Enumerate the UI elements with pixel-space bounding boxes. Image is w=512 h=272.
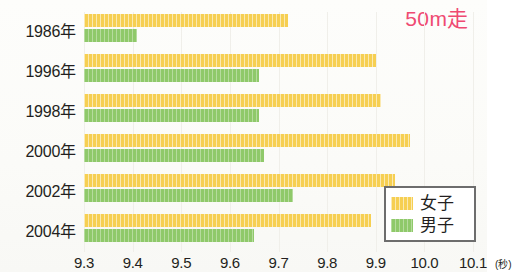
bar-male[interactable] — [84, 229, 254, 242]
y-axis-label-1986年: 1986年 — [25, 18, 76, 42]
legend-swatch-female-icon — [391, 197, 413, 210]
bar-row — [84, 12, 473, 52]
bar-row — [84, 52, 473, 92]
x-axis-unit-label: (秒) — [495, 256, 512, 271]
bar-female[interactable] — [84, 174, 395, 187]
bar-male[interactable] — [84, 149, 264, 162]
bar-female[interactable] — [84, 214, 371, 227]
legend-label-female: 女子 — [420, 195, 454, 212]
x-axis-tick: 9.8 — [317, 254, 337, 271]
bar-female[interactable] — [84, 14, 288, 27]
legend-swatch-male-icon — [391, 219, 413, 232]
bar-male[interactable] — [84, 69, 259, 82]
y-axis-label-1998年: 1998年 — [25, 98, 76, 122]
x-axis-tick: 10.1 — [459, 254, 487, 271]
y-axis-label-2004年: 2004年 — [25, 218, 76, 242]
x-axis-tick: 9.3 — [74, 254, 94, 271]
bar-row — [84, 92, 473, 132]
y-axis-category-labels: 1986年1996年1998年2000年2002年2004年 — [0, 12, 82, 252]
y-axis-label-1996年: 1996年 — [25, 58, 76, 82]
legend-item-female[interactable]: 女子 — [391, 192, 469, 214]
bar-male[interactable] — [84, 109, 259, 122]
x-axis-tick: 9.9 — [366, 254, 386, 271]
legend-label-male: 男子 — [420, 217, 454, 234]
x-axis-tick: 10.0 — [410, 254, 438, 271]
bar-female[interactable] — [84, 134, 410, 147]
x-axis-tick: 9.4 — [123, 254, 143, 271]
y-axis-label-2002年: 2002年 — [25, 178, 76, 202]
bar-male[interactable] — [84, 189, 293, 202]
x-axis-tick: 9.7 — [269, 254, 289, 271]
bar-row — [84, 132, 473, 172]
y-axis-label-2000年: 2000年 — [25, 138, 76, 162]
bar-female[interactable] — [84, 54, 376, 67]
bar-female[interactable] — [84, 94, 381, 107]
legend-item-male[interactable]: 男子 — [391, 214, 469, 236]
bar-male[interactable] — [84, 29, 137, 42]
x-axis: (秒) 9.39.49.59.69.79.89.910.010.1 — [0, 254, 487, 272]
x-axis-tick: 9.6 — [220, 254, 240, 271]
chart-legend: 女子 男子 — [384, 186, 476, 242]
x-axis-tick: 9.5 — [171, 254, 191, 271]
